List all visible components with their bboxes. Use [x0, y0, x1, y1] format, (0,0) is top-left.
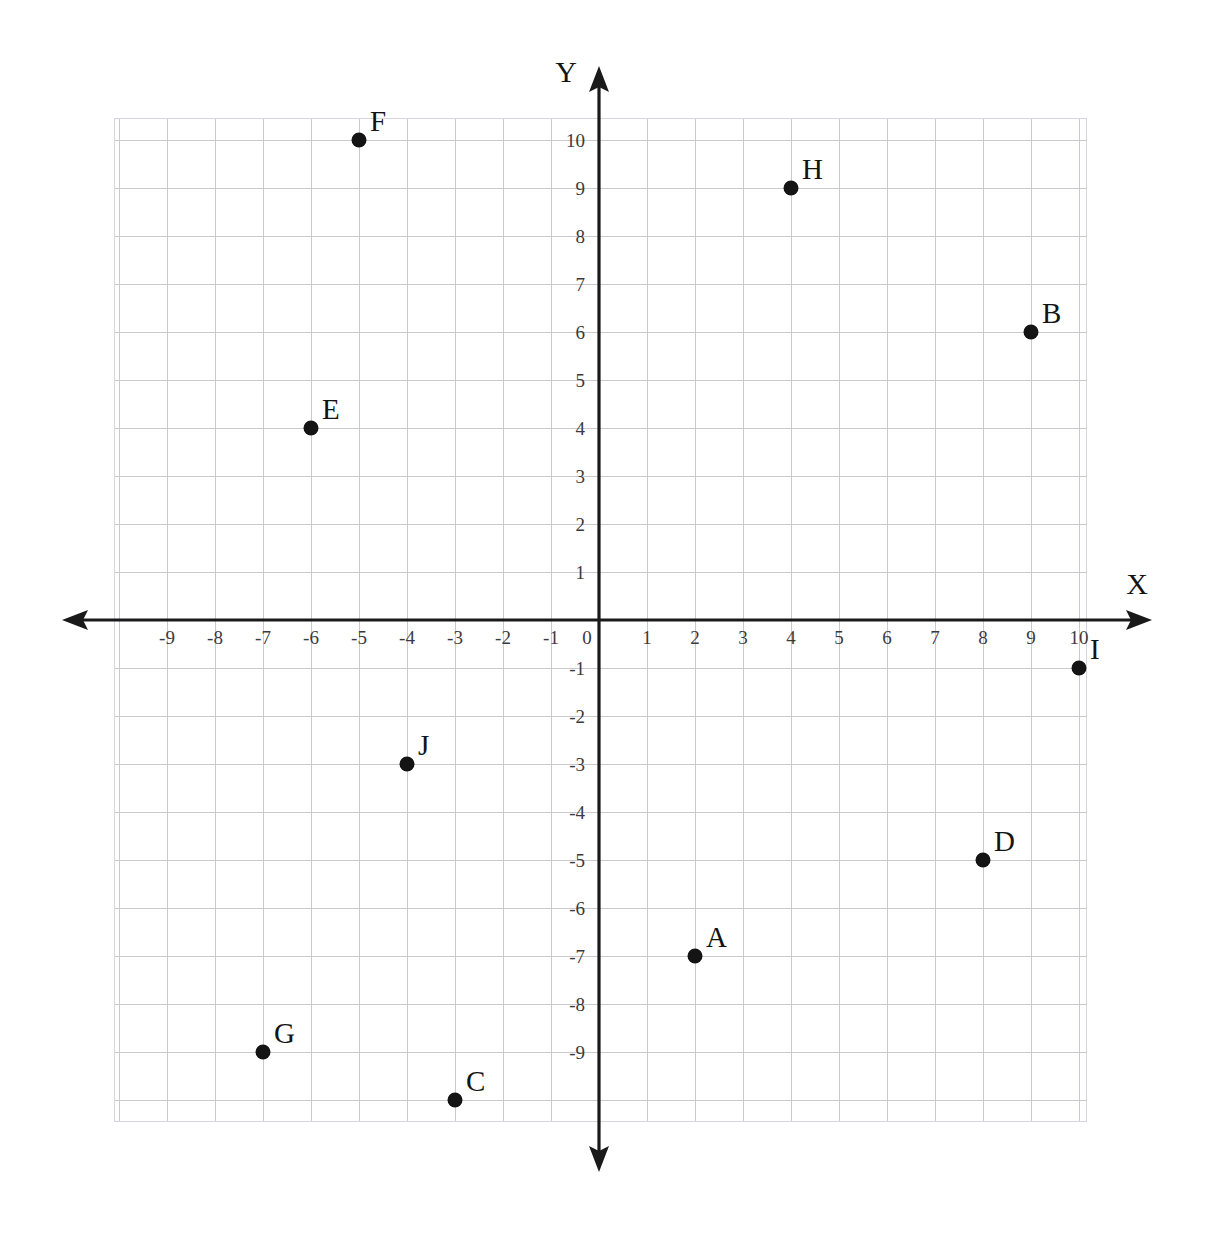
plot-point-f: F [352, 105, 387, 148]
plot-point-g: G [256, 1017, 296, 1060]
point-label-c: C [466, 1065, 485, 1097]
x-tick-label: 1 [642, 627, 652, 648]
y-tick-label: 3 [576, 466, 586, 487]
point-label-f: F [370, 105, 386, 137]
x-tick-label: 2 [690, 627, 700, 648]
point-marker-dot [1024, 325, 1039, 340]
y-tick-label: 1 [576, 562, 586, 583]
y-tick-label: 10 [566, 130, 585, 151]
x-tick-label: 5 [834, 627, 844, 648]
point-label-j: J [418, 729, 429, 761]
scatter-plot-canvas: -9-8-7-6-5-4-3-2-1012345678910 109876543… [0, 0, 1211, 1244]
x-axis-tick-labels: -9-8-7-6-5-4-3-2-1012345678910 [159, 627, 1088, 648]
x-tick-label: -9 [159, 627, 175, 648]
y-tick-label: 4 [576, 418, 586, 439]
y-tick-label: -9 [569, 1042, 585, 1063]
point-label-a: A [706, 921, 727, 953]
point-label-g: G [274, 1017, 295, 1049]
x-axis-label: X [1126, 567, 1148, 600]
y-tick-label: -3 [569, 754, 585, 775]
y-tick-label: -8 [569, 994, 585, 1015]
point-marker-dot [352, 133, 367, 148]
y-axis-label: Y [555, 55, 577, 88]
y-tick-label: 5 [576, 370, 586, 391]
point-label-b: B [1042, 297, 1061, 329]
point-marker-dot [256, 1045, 271, 1060]
y-tick-label: -4 [569, 802, 585, 823]
point-marker-dot [304, 421, 319, 436]
y-tick-label: -6 [569, 898, 585, 919]
x-tick-label: -7 [255, 627, 271, 648]
y-tick-label: -1 [569, 658, 585, 679]
y-tick-label: 2 [576, 514, 586, 535]
y-tick-label: 8 [576, 226, 586, 247]
point-marker-dot [976, 853, 991, 868]
y-tick-label: -2 [569, 706, 585, 727]
x-tick-label: 7 [930, 627, 940, 648]
x-tick-label: 10 [1070, 627, 1089, 648]
x-tick-label: -5 [351, 627, 367, 648]
x-tick-label: 4 [786, 627, 796, 648]
point-marker-dot [688, 949, 703, 964]
x-tick-label: 0 [582, 627, 592, 648]
y-tick-label: -5 [569, 850, 585, 871]
x-tick-label: -1 [543, 627, 559, 648]
plot-point-b: B [1024, 297, 1062, 340]
x-tick-label: 9 [1026, 627, 1036, 648]
point-marker-dot [784, 181, 799, 196]
y-tick-label: -7 [569, 946, 585, 967]
plotted-points: ABCDEFGHIJ [256, 105, 1100, 1108]
x-tick-label: -3 [447, 627, 463, 648]
point-marker-dot [400, 757, 415, 772]
coordinate-plane-figure: -9-8-7-6-5-4-3-2-1012345678910 109876543… [0, 0, 1211, 1244]
x-tick-label: -4 [399, 627, 415, 648]
x-tick-label: 3 [738, 627, 748, 648]
axis-lines [62, 66, 1152, 1172]
y-tick-label: 7 [576, 274, 586, 295]
y-tick-label: 9 [576, 178, 586, 199]
point-marker-dot [448, 1093, 463, 1108]
y-axis-tick-labels: 10987654321-1-2-3-4-5-6-7-8-9 [566, 130, 586, 1063]
x-tick-label: -6 [303, 627, 319, 648]
x-tick-label: -8 [207, 627, 223, 648]
x-tick-label: 8 [978, 627, 988, 648]
y-tick-label: 6 [576, 322, 586, 343]
point-label-d: D [994, 825, 1015, 857]
point-label-i: I [1090, 633, 1100, 665]
plot-point-a: A [688, 921, 728, 964]
plot-point-e: E [304, 393, 340, 436]
plot-point-c: C [448, 1065, 486, 1108]
point-marker-dot [1072, 661, 1087, 676]
x-tick-label: 6 [882, 627, 892, 648]
point-label-e: E [322, 393, 340, 425]
plot-point-j: J [400, 729, 430, 772]
point-label-h: H [802, 153, 823, 185]
x-tick-label: -2 [495, 627, 511, 648]
plot-point-d: D [976, 825, 1015, 868]
plot-point-h: H [784, 153, 824, 196]
